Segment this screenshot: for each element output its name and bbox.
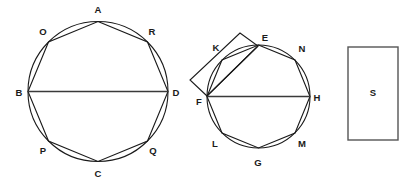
middle-octagon-figure: E N H M G L F K	[190, 32, 321, 168]
attached-square	[190, 33, 258, 96]
vertex-label-a: A	[95, 4, 102, 15]
vertex-label-d: D	[173, 87, 180, 98]
vertex-label-c: C	[95, 168, 102, 179]
vertex-label-h: H	[314, 92, 321, 103]
vertex-label-f: F	[196, 96, 202, 107]
left-octagon-figure: A R D Q C P B O	[16, 4, 180, 179]
vertex-label-l: L	[212, 138, 218, 149]
square-diagonal-fe	[207, 46, 258, 96]
rectangle-label-s: S	[370, 87, 376, 98]
vertex-label-r: R	[149, 26, 156, 37]
vertex-label-b: B	[16, 87, 23, 98]
rectangle-s-figure: S	[348, 47, 398, 140]
vertex-label-n: N	[299, 43, 306, 54]
vertex-label-q: Q	[149, 145, 156, 156]
vertex-label-o: O	[39, 26, 46, 37]
vertex-label-g: G	[254, 157, 261, 168]
vertex-label-k: K	[213, 42, 220, 53]
vertex-label-e: E	[262, 32, 268, 43]
vertex-label-m: M	[298, 138, 306, 149]
geometry-diagram: A R D Q C P B O E N H M G L F K	[0, 0, 416, 187]
vertex-label-p: P	[40, 145, 47, 156]
diagram-canvas: A R D Q C P B O E N H M G L F K	[0, 0, 416, 187]
